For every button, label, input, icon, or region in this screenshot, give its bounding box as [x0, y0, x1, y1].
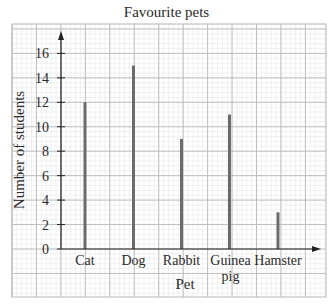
- bar-dog: [132, 66, 135, 249]
- bar-cat: [84, 102, 87, 249]
- y-tick-label: 12: [35, 95, 49, 110]
- y-tick-label: 4: [42, 193, 49, 208]
- y-tick-label: 16: [35, 46, 49, 61]
- x-axis-title: Pet: [175, 276, 195, 292]
- bar-hamster: [277, 212, 280, 249]
- bar-rabbit: [180, 139, 183, 249]
- y-tick-label: 0: [42, 242, 49, 257]
- x-category-label: Rabbit: [163, 253, 200, 268]
- y-tick-label: 10: [35, 120, 49, 135]
- y-axis-title: Number of students: [11, 91, 27, 209]
- y-tick-label: 14: [35, 71, 49, 86]
- y-tick-label: 2: [42, 218, 49, 233]
- bars: [84, 66, 280, 249]
- x-category-label: Cat: [75, 253, 95, 268]
- x-category-label: pig: [222, 269, 240, 284]
- y-tick-label: 8: [42, 144, 49, 159]
- x-category-label: Hamster: [254, 253, 302, 268]
- x-category-label: Guinea: [210, 253, 251, 268]
- x-category-label: Dog: [121, 253, 145, 268]
- bar-chart: 0246810121416 CatDogRabbitGuineapigHamst…: [0, 0, 333, 304]
- bar-guinea-pig: [228, 115, 231, 249]
- y-tick-label: 6: [42, 169, 49, 184]
